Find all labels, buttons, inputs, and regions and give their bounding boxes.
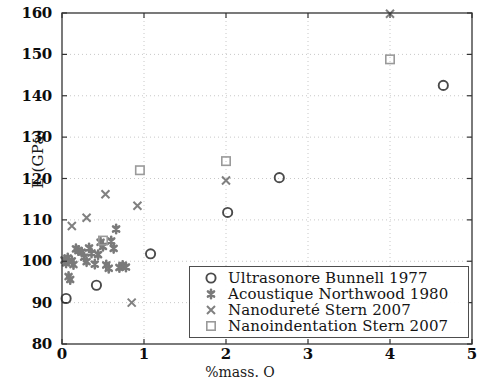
legend-label: Nanodureté Stern 2007	[228, 302, 411, 318]
data-point-square	[136, 166, 144, 174]
x-tick-label: 2	[211, 345, 241, 363]
series-1	[61, 225, 129, 284]
series-3	[99, 55, 394, 245]
data-point-x	[101, 190, 109, 198]
y-tick-label: 100	[0, 252, 52, 270]
x-tick-label: 5	[457, 345, 480, 363]
square-marker-icon	[194, 318, 228, 334]
data-point-asterisk	[208, 290, 214, 298]
data-point-asterisk	[113, 225, 119, 233]
x-tick-label: 4	[375, 345, 405, 363]
y-tick-label: 120	[0, 170, 52, 188]
y-tick-label: 80	[0, 335, 52, 353]
data-point-circle	[92, 281, 101, 290]
legend-glyph	[208, 290, 214, 298]
y-axis-title: E (GPa)	[29, 99, 47, 219]
legend-item-nanodurete: Nanodureté Stern 2007	[194, 302, 464, 318]
legend-marker-glyph	[203, 318, 219, 334]
legend-marker-glyph	[203, 286, 219, 302]
data-point-circle	[62, 294, 71, 303]
legend-item-ultrasonore: Ultrasonore Bunnell 1977	[194, 270, 464, 286]
legend-label: Ultrasonore Bunnell 1977	[228, 270, 428, 286]
circle-marker-icon	[194, 270, 228, 286]
legend-glyph	[206, 273, 215, 282]
legend-marker-glyph	[203, 270, 219, 286]
legend-glyph	[207, 306, 215, 314]
y-tick-label: 150	[0, 45, 52, 63]
y-tick-label: 130	[0, 128, 52, 146]
legend-label: Acoustique Northwood 1980	[228, 286, 448, 302]
x-axis-title: %mass. O	[0, 364, 480, 380]
y-tick-label: 140	[0, 87, 52, 105]
data-point-x	[68, 222, 76, 230]
x-tick-label: 3	[293, 345, 323, 363]
legend-marker-glyph	[203, 302, 219, 318]
y-tick-label: 110	[0, 211, 52, 229]
data-point-circle	[275, 173, 284, 182]
data-point-x	[83, 214, 91, 222]
y-tick-label: 160	[0, 4, 52, 22]
data-point-square	[207, 322, 215, 330]
legend-label: Nanoindentation Stern 2007	[228, 318, 448, 334]
scatter-plot-figure: E (GPa) %mass. O 80901001101201301401501…	[0, 0, 480, 384]
data-point-circle	[439, 81, 448, 90]
data-point-circle	[206, 273, 215, 282]
data-point-asterisk	[111, 244, 117, 252]
data-point-circle	[223, 208, 232, 217]
x-tick-label: 1	[129, 345, 159, 363]
legend-glyph	[207, 322, 215, 330]
data-point-x	[133, 202, 141, 210]
x-marker-icon	[194, 302, 228, 318]
data-point-square	[386, 55, 394, 63]
chart-legend: Ultrasonore Bunnell 1977 Acoustique Nort…	[189, 266, 469, 338]
asterisk-marker-icon	[194, 286, 228, 302]
data-point-asterisk	[95, 250, 101, 258]
x-tick-label: 0	[47, 345, 77, 363]
y-tick-label: 90	[0, 294, 52, 312]
legend-item-acoustique: Acoustique Northwood 1980	[194, 286, 464, 302]
data-point-x	[207, 306, 215, 314]
data-point-circle	[146, 249, 155, 258]
data-point-asterisk	[92, 260, 98, 268]
legend-item-nanoindentation: Nanoindentation Stern 2007	[194, 318, 464, 334]
